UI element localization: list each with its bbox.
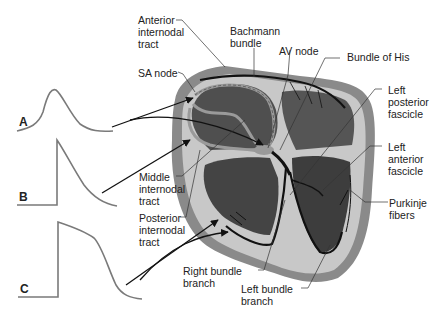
- waveform-label-c: C: [20, 282, 29, 296]
- label-posterior-internodal-tract: Posterior internodal tract: [139, 212, 185, 248]
- label-bundle-of-his: Bundle of His: [347, 51, 409, 63]
- label-right-bundle-branch: Right bundle branch: [183, 265, 242, 289]
- label-bachmann-bundle: Bachmann bundle: [230, 25, 280, 49]
- label-sa-node: SA node: [138, 67, 178, 79]
- av-node: [254, 145, 274, 155]
- label-av-node: AV node: [279, 45, 319, 57]
- waveform-c: [18, 222, 142, 299]
- label-middle-internodal-tract: Middle internodal tract: [139, 171, 185, 207]
- label-anterior-internodal-tract: Anterior internodal tract: [138, 14, 184, 50]
- left-atrium: [282, 90, 355, 150]
- label-left-bundle-branch: Left bundle branch: [241, 283, 293, 307]
- waveform-a: [17, 90, 113, 132]
- waveform-label-b: B: [19, 190, 28, 204]
- waveform-b: [17, 140, 117, 206]
- label-left-anterior-fascicle: Left anterior fascicle: [388, 141, 424, 177]
- label-purkinje-fibers: Purkinje fibers: [389, 197, 427, 221]
- label-left-posterior-fascicle: Left posterior fascicle: [388, 84, 429, 120]
- waveform-label-a: A: [19, 115, 28, 129]
